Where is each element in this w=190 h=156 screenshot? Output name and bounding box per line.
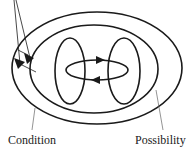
- condition-label: Condition: [8, 134, 56, 146]
- possibility-label: Possibility: [135, 134, 186, 146]
- loop-top-arrow-icon: [96, 56, 105, 64]
- outer-ellipse: [12, 12, 182, 124]
- right-inner-ellipse: [108, 38, 140, 104]
- loop-bottom-arrow-icon: [91, 76, 100, 84]
- condition-leader-line: [32, 108, 35, 130]
- possibility-leader-line: [156, 90, 163, 130]
- pointer-line-inner: [16, 0, 30, 58]
- pointer-crossbar-2: [20, 64, 36, 72]
- left-inner-ellipse: [55, 38, 85, 104]
- middle-ellipse: [30, 25, 158, 113]
